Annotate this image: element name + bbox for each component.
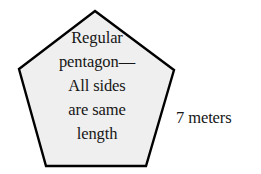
pentagon-shape — [0, 0, 261, 174]
pentagon-outline — [19, 11, 174, 166]
side-length-label: 7 meters — [176, 107, 232, 128]
geometry-diagram: Regular pentagon— All sides are same len… — [0, 0, 261, 174]
